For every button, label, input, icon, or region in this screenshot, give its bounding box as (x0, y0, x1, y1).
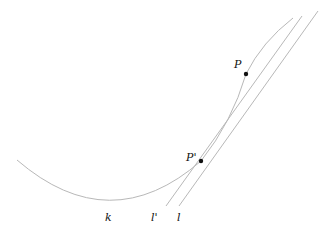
label-l-prime: l' (151, 211, 158, 224)
point-P-prime (199, 159, 203, 163)
diagram: P P' k l' l (0, 0, 330, 232)
curve-k (17, 18, 293, 200)
tangent-diagram-svg (0, 0, 330, 232)
label-P: P (234, 58, 241, 71)
point-P (244, 72, 248, 76)
label-l: l (177, 211, 181, 224)
tangent-l (179, 11, 318, 206)
label-k: k (105, 211, 112, 224)
label-P-prime: P' (186, 151, 196, 164)
secant-l-prime (166, 16, 302, 206)
